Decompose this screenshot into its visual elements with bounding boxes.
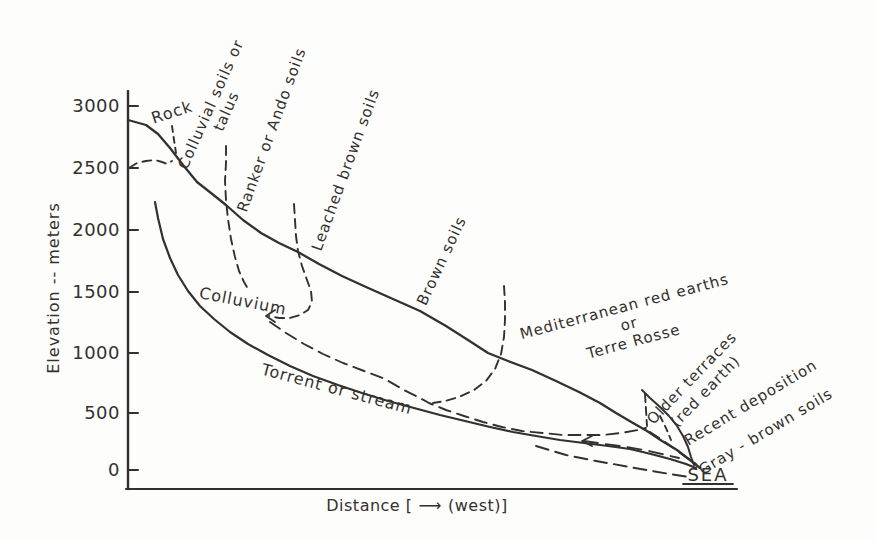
x-axis-title-suffix: (west)] xyxy=(448,496,508,515)
y-axis-ticks xyxy=(128,106,138,470)
valley-fill-lower-dash xyxy=(536,446,689,477)
feature-label-sea: SEA xyxy=(687,466,728,483)
dashed-2500-contour xyxy=(129,160,172,168)
soil-catena-diagram: 3000 2500 2000 1500 1000 500 0 Elevation… xyxy=(0,0,876,541)
x-axis-title: Distance [ ⟶ (west)] xyxy=(326,496,508,515)
colluvial-boundary-dash xyxy=(225,146,248,289)
y-axis-title: Elevation -- meters xyxy=(45,202,62,374)
y-tick-500: 500 xyxy=(30,402,120,423)
y-tick-0: 0 xyxy=(30,459,120,480)
right-arrow-icon: ⟶ xyxy=(419,496,442,515)
x-axis-title-prefix: Distance [ xyxy=(326,496,412,515)
mediterranean-boundary-dash xyxy=(433,286,505,403)
y-tick-2500: 2500 xyxy=(30,157,120,178)
y-tick-3000: 3000 xyxy=(30,95,120,116)
rock-boundary-dash xyxy=(172,126,176,153)
